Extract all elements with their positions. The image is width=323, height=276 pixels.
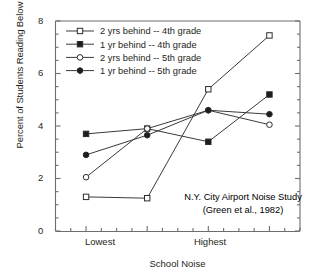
chart-legend: 2 yrs behind -- 4th grade1 yr behind -- … — [66, 26, 201, 76]
data-point-filled-square — [267, 92, 272, 97]
data-point-filled-square — [206, 139, 211, 144]
data-point-open-circle — [77, 55, 83, 61]
legend-label-0: 2 yrs behind -- 4th grade — [100, 26, 201, 36]
data-point-filled-circle — [206, 107, 212, 113]
data-point-filled-square — [77, 42, 82, 47]
data-point-open-circle — [267, 122, 273, 128]
data-point-open-square — [144, 195, 149, 200]
legend-label-2: 2 yrs behind -- 5th grade — [100, 53, 201, 63]
reading-below-grade-level-chart: Percent of Students Reading Below Grade … — [0, 0, 323, 276]
data-point-filled-square — [83, 131, 88, 136]
annotation-line-1: N.Y. City Airport Noise Study — [184, 192, 302, 202]
data-point-filled-circle — [77, 68, 83, 74]
data-point-open-square — [206, 87, 211, 92]
data-point-open-square — [83, 194, 88, 199]
series-3 — [83, 107, 272, 157]
data-point-open-square — [77, 28, 82, 33]
plot-area: 2 yrs behind -- 4th grade1 yr behind -- … — [0, 0, 323, 276]
annotation-line-2: (Green et al., 1982) — [203, 205, 284, 215]
legend-label-3: 1 yr behind -- 5th grade — [100, 66, 197, 76]
data-point-open-circle — [144, 126, 150, 132]
data-point-filled-circle — [267, 111, 273, 117]
data-point-open-square — [267, 33, 272, 38]
data-point-open-circle — [83, 174, 89, 180]
data-point-filled-circle — [83, 152, 89, 158]
legend-label-1: 1 yr behind -- 4th grade — [100, 40, 197, 50]
data-point-filled-circle — [144, 132, 150, 138]
